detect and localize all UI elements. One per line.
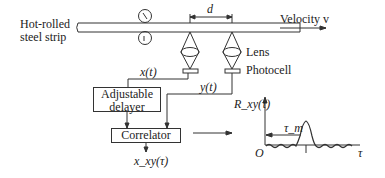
plot-ylabel: R_xy(τ) bbox=[234, 98, 270, 111]
lens-2-icon bbox=[223, 32, 241, 69]
correlator-block: Correlator bbox=[111, 128, 181, 143]
output-label: x_xy(τ) bbox=[134, 155, 168, 168]
signal-x-label: x(t) bbox=[140, 66, 157, 79]
plot-origin: O bbox=[255, 147, 264, 160]
photocell-label: Photocell bbox=[246, 64, 291, 77]
distance-label: d bbox=[207, 3, 213, 16]
delayer-label-line2: delayer bbox=[94, 101, 160, 114]
strip-label-line2: steel strip bbox=[20, 31, 66, 44]
plot-xlabel: τ bbox=[358, 147, 362, 160]
adjustable-delayer-block: Adjustable delayer bbox=[93, 87, 161, 112]
correlation-velocity-diagram: Hot-rolled steel strip d Velocity v Lens… bbox=[0, 0, 385, 178]
steel-strip bbox=[77, 23, 300, 32]
correlator-label: Correlator bbox=[112, 129, 180, 142]
lens-1-icon bbox=[181, 32, 199, 69]
roller-bottom-icon bbox=[139, 32, 152, 45]
photocell-1-icon bbox=[183, 69, 198, 73]
plot-peak-label: τ_m bbox=[284, 122, 303, 135]
signal-y-label: y(t) bbox=[200, 81, 217, 94]
correlation-curve bbox=[266, 121, 352, 148]
photocell-2-icon bbox=[225, 69, 240, 73]
lens-label: Lens bbox=[246, 46, 269, 59]
velocity-label: Velocity v bbox=[280, 13, 329, 26]
